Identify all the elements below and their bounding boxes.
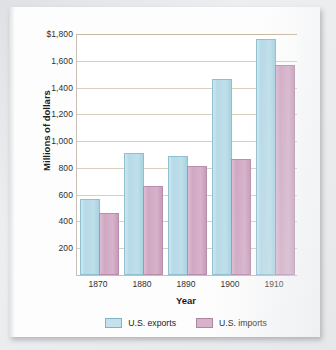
y-axis-tick-label: 1,400 [25,83,73,93]
x-axis-tick-label: 1870 [78,279,118,289]
figure-card: Millions of dollars 2004006008001,0001,2… [9,7,320,337]
bar-exports-1870 [80,199,100,275]
y-axis-tick-label: 600 [25,190,73,200]
y-axis-tick-label: 1,600 [25,56,73,66]
y-axis-tick-label: $1,800 [25,29,73,39]
x-axis-title: Year [76,295,296,306]
bar-imports-1890 [187,166,207,275]
bar-chart-figure: Millions of dollars 2004006008001,0001,2… [9,7,320,337]
bar-group [255,34,295,275]
x-axis-tick-label: 1900 [210,279,250,289]
bar-imports-1870 [99,213,119,275]
legend-item-exports: U.S. exports [105,318,176,328]
bar-imports-1880 [143,186,163,275]
y-axis-tick-label: 800 [25,163,73,173]
x-axis-tick-label: 1910 [254,279,294,289]
y-axis-tick-label: 1,000 [25,136,73,146]
scanned-page-background: Millions of dollars 2004006008001,0001,2… [0,0,336,350]
chart-legend: U.S. exports U.S. imports [76,313,296,333]
x-axis-tick-label: 1890 [166,279,206,289]
legend-label-imports: U.S. imports [219,318,267,328]
y-axis-ticks: 2004006008001,0001,2001,4001,600$1,800 [23,34,73,275]
bar-exports-1890 [168,156,188,275]
bar-exports-1900 [212,79,232,275]
legend-swatch-imports-icon [196,318,213,328]
bars-layer [77,34,297,275]
bar-group [167,34,207,275]
bar-exports-1910 [256,39,276,275]
plot-area [76,34,297,276]
bar-group [211,34,251,275]
legend-label-exports: U.S. exports [128,318,176,328]
y-axis-tick-label: 1,200 [25,109,73,119]
y-axis-tick-label: 400 [25,216,73,226]
legend-item-imports: U.S. imports [196,318,267,328]
bar-group [79,34,119,275]
bar-imports-1900 [231,159,251,275]
legend-swatch-exports-icon [105,318,122,328]
bar-imports-1910 [275,65,295,275]
bar-group [123,34,163,275]
bar-exports-1880 [124,153,144,276]
x-axis-ticks: 18701880189019001910 [76,279,296,293]
x-axis-tick-label: 1880 [122,279,162,289]
y-axis-tick-label: 200 [25,243,73,253]
